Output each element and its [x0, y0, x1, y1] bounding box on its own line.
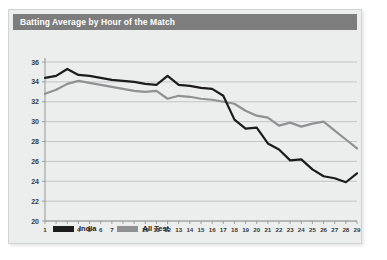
axis-label-x: 28 [342, 226, 349, 233]
axis-label-x: 1 [43, 226, 47, 233]
legend-label-all-test: All Test [143, 224, 170, 233]
axis-label-y: 22 [31, 198, 39, 205]
axis-label-x: 14 [186, 226, 193, 233]
axis-label-x: 24 [298, 226, 305, 233]
plot-area: 3634323028262422201234567891011121314151… [9, 32, 363, 245]
series-line-all-test [45, 81, 357, 149]
axis-label-x: 26 [320, 226, 327, 233]
series-line-india [45, 69, 357, 182]
chart-title-bar: Batting Average by Hour of the Match [13, 14, 357, 30]
legend-swatch-india [53, 226, 74, 232]
axis-label-x: 21 [264, 226, 271, 233]
axis-label-x: 27 [331, 226, 338, 233]
axis-label-x: 29 [354, 226, 361, 233]
axis-label-x: 18 [231, 226, 238, 233]
axis-label-y: 28 [31, 138, 39, 145]
axis-label-x: 22 [276, 226, 283, 233]
legend-swatch-all-test [117, 226, 138, 232]
line-chart-svg: 3634323028262422201234567891011121314151… [9, 32, 363, 245]
page-title: Batting Average by Hour of the Match [20, 17, 175, 27]
legend-item-india: India [53, 224, 97, 233]
axis-label-x: 16 [209, 226, 216, 233]
axis-label-y: 30 [31, 118, 39, 125]
axis-label-x: 17 [220, 226, 227, 233]
axis-label-x: 23 [287, 226, 294, 233]
axis-label-y: 26 [31, 158, 39, 165]
axis-label-y: 32 [31, 98, 39, 105]
axis-label-y: 34 [31, 78, 39, 85]
legend-item-all-test: All Test [117, 224, 170, 233]
axis-label-x: 20 [253, 226, 260, 233]
chart-legend: India All Test [53, 224, 169, 233]
axis-label-x: 15 [198, 226, 205, 233]
chart-card: Batting Average by Hour of the Match 363… [8, 9, 362, 244]
axis-label-x: 19 [242, 226, 249, 233]
legend-label-india: India [79, 224, 97, 233]
axis-label-y: 24 [31, 178, 39, 185]
axis-label-x: 25 [309, 226, 316, 233]
axis-label-y: 20 [31, 218, 39, 225]
axis-label-y: 36 [31, 59, 39, 66]
axis-label-x: 13 [175, 226, 182, 233]
